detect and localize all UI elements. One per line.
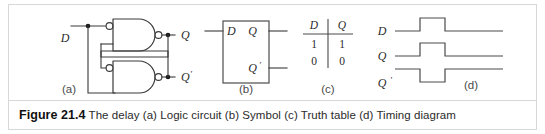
figure-artwork: D Q Q ′ (a) D Q (9, 5, 536, 100)
label-b-output-qprime: Q (248, 61, 257, 75)
figure-frame: D Q Q ′ (a) D Q (8, 4, 537, 130)
caption-bar: Figure 21.4 The delay (a) Logic circuit … (9, 101, 536, 129)
panel-c-truth-table: D Q 1 1 0 0 (c) (303, 19, 353, 95)
bubble-nand-bottom-output (155, 74, 162, 81)
truth-table-cell-r0c1: 1 (339, 38, 345, 50)
timing-label-qprime-mark: ′ (390, 75, 393, 85)
gate-nand-bottom (113, 61, 155, 93)
label-b-output-q: Q (248, 24, 257, 38)
truth-table-cell-r1c1: 0 (339, 55, 345, 67)
label-a-output-qprime-mark: ′ (190, 69, 193, 79)
truth-table-header-q: Q (338, 19, 347, 31)
label-a-input-d: D (60, 31, 70, 45)
panel-key-a: (a) (62, 83, 76, 95)
label-b-input-d: D (226, 24, 236, 38)
timing-trace-q (395, 43, 503, 56)
panel-key-b: (b) (239, 83, 253, 95)
panel-key-c: (c) (321, 83, 335, 95)
timing-trace-d (395, 18, 503, 31)
bubble-nand-bottom-input (106, 65, 113, 72)
timing-trace-qprime (395, 69, 503, 82)
timing-label-qprime: Q (378, 76, 387, 90)
panel-a-logic-circuit: D Q Q ′ (a) (60, 19, 193, 95)
gate-nand-top (113, 19, 155, 51)
label-a-output-q: Q (181, 28, 190, 42)
truth-table-cell-r0c0: 1 (311, 38, 317, 50)
timing-label-q: Q (378, 49, 387, 63)
figure-caption: Figure 21.4 The delay (a) Logic circuit … (9, 108, 456, 122)
caption-description: The delay (a) Logic circuit (b) Symbol (… (86, 109, 456, 121)
panel-b-symbol: D Q Q ′ (b) (205, 21, 287, 95)
label-b-output-qprime-mark: ′ (259, 60, 262, 70)
bubble-nand-top-input (106, 23, 113, 30)
panel-key-d: (d) (464, 79, 478, 91)
panel-d-timing-diagram: D Q Q ′ (d) (377, 18, 503, 91)
label-a-output-qprime: Q (181, 70, 190, 84)
caption-figure-number: Figure 21.4 (19, 108, 86, 122)
timing-label-d: D (377, 24, 387, 38)
truth-table-header-d: D (309, 19, 319, 31)
figure-container: D Q Q ′ (a) D Q (0, 0, 545, 134)
bubble-nand-top-output (155, 32, 162, 39)
truth-table-cell-r1c0: 0 (311, 55, 317, 67)
